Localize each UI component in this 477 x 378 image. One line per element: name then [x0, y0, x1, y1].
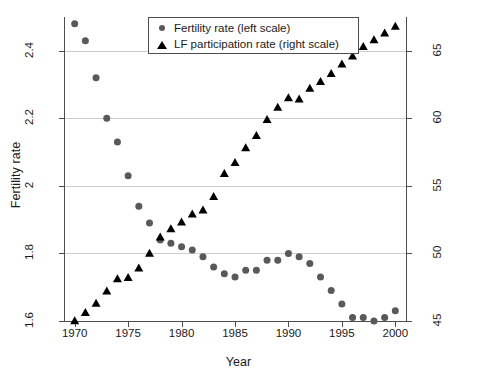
data-point-circle — [93, 74, 100, 81]
y-tick-right-label: 50 — [413, 246, 461, 260]
data-point-circle — [264, 257, 271, 264]
y-tick-right-label: 55 — [413, 179, 461, 193]
data-point-circle — [381, 314, 388, 321]
y-tick-right-label: 60 — [413, 111, 461, 125]
data-point-triangle — [273, 103, 282, 111]
data-point-circle — [274, 257, 281, 264]
data-point-triangle — [166, 224, 175, 232]
y-tick-left-label: 2 — [5, 179, 53, 193]
x-tick-label: 1980 — [152, 327, 212, 339]
triangle-marker-icon — [157, 39, 167, 49]
data-point-circle — [82, 37, 89, 44]
data-point-circle — [253, 267, 260, 274]
data-point-circle — [103, 115, 110, 122]
legend-item-fertility: Fertility rate (left scale) — [157, 20, 290, 36]
legend-label-fertility: Fertility rate (left scale) — [174, 20, 290, 36]
data-point-circle — [221, 270, 228, 277]
data-point-triangle — [316, 77, 325, 85]
data-point-triangle — [70, 316, 79, 324]
x-tick-label: 1970 — [45, 327, 105, 339]
data-point-triangle — [231, 158, 240, 166]
legend-label-lf-participation: LF participation rate (right scale) — [174, 36, 339, 52]
data-point-triangle — [327, 69, 336, 77]
data-point-triangle — [359, 42, 368, 50]
data-point-circle — [232, 274, 239, 281]
data-point-circle — [71, 20, 78, 27]
data-point-circle — [210, 263, 217, 270]
data-point-triangle — [284, 93, 293, 101]
data-point-circle — [167, 240, 174, 247]
data-point-circle — [317, 274, 324, 281]
data-point-triangle — [113, 274, 122, 282]
x-tick-label: 1990 — [258, 327, 318, 339]
data-point-circle — [349, 314, 356, 321]
data-point-circle — [146, 220, 153, 227]
data-point-circle — [360, 314, 367, 321]
data-point-triangle — [145, 249, 154, 257]
data-point-triangle — [134, 264, 143, 272]
data-point-triangle — [92, 299, 101, 307]
data-point-circle — [114, 138, 121, 145]
data-point-triangle — [188, 209, 197, 217]
data-point-triangle — [295, 95, 304, 103]
data-point-triangle — [241, 143, 250, 151]
x-tick-label: 2000 — [365, 327, 425, 339]
data-point-triangle — [337, 59, 346, 67]
data-point-circle — [135, 203, 142, 210]
y-tick-left-label: 1.8 — [5, 246, 53, 260]
data-point-triangle — [209, 192, 218, 200]
data-point-circle — [306, 260, 313, 267]
x-tick-label: 1975 — [98, 327, 158, 339]
data-point-triangle — [156, 232, 165, 240]
y-tick-right-label: 65 — [413, 44, 461, 58]
series-fertility — [71, 20, 399, 324]
data-point-circle — [370, 318, 377, 325]
x-tick-label: 1995 — [312, 327, 372, 339]
data-point-triangle — [124, 273, 133, 281]
y-tick-left-label: 2.4 — [5, 44, 53, 58]
x-tick-label: 1985 — [205, 327, 265, 339]
chart-legend: Fertility rate (left scale) LF participa… — [148, 17, 359, 54]
data-point-triangle — [305, 84, 314, 92]
y-axis-left-title: Fertility rate — [9, 125, 23, 225]
data-point-circle — [392, 307, 399, 314]
data-point-circle — [189, 247, 196, 254]
data-point-triangle — [220, 169, 229, 177]
circle-marker-icon — [157, 23, 167, 33]
data-point-triangle — [198, 205, 207, 213]
data-point-circle — [285, 250, 292, 257]
data-point-triangle — [369, 35, 378, 43]
data-point-circle — [199, 253, 206, 260]
y-tick-right-label: 45 — [413, 314, 461, 328]
data-point-triangle — [81, 308, 90, 316]
x-axis-title: Year — [0, 355, 477, 369]
chart-figure: Fertility rate Female LF participation r… — [0, 0, 477, 378]
chart-plot-area — [0, 0, 477, 378]
data-point-triangle — [391, 22, 400, 30]
data-point-circle — [178, 243, 185, 250]
data-point-triangle — [177, 218, 186, 226]
data-point-triangle — [102, 286, 111, 294]
data-point-circle — [242, 267, 249, 274]
data-point-circle — [125, 172, 132, 179]
legend-item-lf-participation: LF participation rate (right scale) — [157, 36, 339, 52]
data-point-circle — [338, 301, 345, 308]
y-tick-left-label: 1.6 — [5, 314, 53, 328]
data-point-circle — [328, 287, 335, 294]
data-point-circle — [296, 253, 303, 260]
data-point-triangle — [380, 28, 389, 36]
y-tick-left-label: 2.2 — [5, 111, 53, 125]
data-point-triangle — [252, 131, 261, 139]
